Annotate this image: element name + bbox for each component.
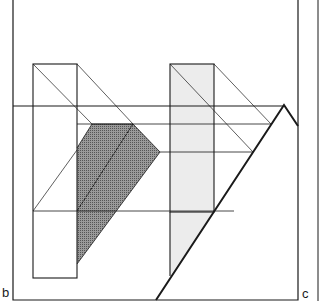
left-prism (33, 64, 77, 278)
ray-right-tr (214, 64, 271, 124)
shadow-dark (77, 124, 160, 264)
panel-label-b: b (2, 286, 9, 299)
diagram-canvas (0, 0, 320, 301)
ray-left-tr (77, 64, 133, 124)
left-lower-diag (33, 150, 77, 211)
panel-label-c: c (302, 287, 309, 300)
ray-left-tl (33, 64, 92, 124)
